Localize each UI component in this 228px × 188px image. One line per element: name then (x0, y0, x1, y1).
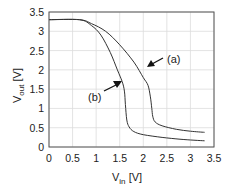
grid-lines (49, 12, 214, 147)
x-axis-label: Vin [V] (112, 171, 142, 186)
y-tick-label: 3.5 (29, 6, 44, 18)
y-tick-label: 0.5 (29, 122, 44, 134)
y-tick-label: 2.5 (29, 45, 44, 57)
y-tick-label: 3 (38, 25, 44, 37)
y-tick-label: 1 (38, 102, 44, 114)
x-tick-label: 3 (188, 152, 194, 164)
y-axis-label: Vout [V] (11, 68, 26, 103)
x-tick-label: 1.5 (112, 152, 127, 164)
y-tick-label: 1.5 (29, 83, 44, 95)
plot-frame (49, 12, 214, 147)
annotation-b-label: (b) (88, 91, 101, 103)
annotation-a-label: (a) (167, 53, 180, 65)
annotation-b: (b) (88, 81, 122, 103)
annotation-a: (a) (147, 53, 180, 67)
x-tick-label: 2 (140, 152, 146, 164)
x-tick-label: 0.5 (65, 152, 80, 164)
arrow-head-icon (113, 81, 122, 88)
x-tick-label: 3.5 (207, 152, 222, 164)
chart-figure: 00.511.522.533.5 00.511.522.533.5 (a) (b… (0, 0, 228, 188)
x-tick-label: 1 (93, 152, 99, 164)
y-tick-label: 0 (38, 141, 44, 153)
x-tick-label: 0 (46, 152, 52, 164)
y-tick-labels: 00.511.522.533.5 (29, 6, 44, 153)
x-tick-label: 2.5 (160, 152, 175, 164)
y-tick-label: 2 (38, 64, 44, 76)
x-tick-labels: 00.511.522.533.5 (46, 152, 221, 164)
